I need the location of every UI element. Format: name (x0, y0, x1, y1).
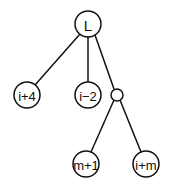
node-i-plus-m: i+m (133, 151, 159, 177)
node-m-plus-1: m+1 (73, 151, 99, 177)
junction-node-circle (111, 89, 123, 101)
m-plus-1-node-label: m+1 (73, 158, 99, 173)
tree-diagram: L i+4 i−2 m+1 i+m (0, 0, 172, 188)
i-plus-4-node-label: i+4 (18, 89, 36, 104)
i-minus-2-node-label: i−2 (79, 89, 97, 104)
edge-junction-to-i-plus-m (120, 100, 141, 152)
node-i-minus-2: i−2 (75, 82, 101, 108)
root-node-label: L (84, 17, 92, 34)
node-root: L (75, 11, 101, 37)
i-plus-m-node-label: i+m (135, 158, 156, 173)
edge-root-to-junction (95, 35, 114, 89)
edge-junction-to-m-plus-1 (91, 100, 114, 152)
node-i-plus-4: i+4 (14, 82, 40, 108)
edge-root-to-i-plus-4 (35, 34, 80, 85)
node-junction (111, 89, 123, 101)
